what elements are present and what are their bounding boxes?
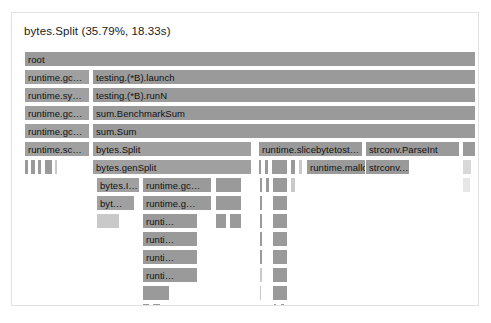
flame-frame[interactable]: bytes.genSplit <box>92 159 252 175</box>
flame-frame-unlabeled[interactable] <box>272 177 288 193</box>
flame-frame[interactable]: runti… <box>142 231 198 247</box>
flame-frame-unlabeled[interactable] <box>259 177 263 193</box>
flame-frame-unlabeled[interactable] <box>272 195 288 211</box>
flame-frame-unlabeled[interactable] <box>36 177 38 193</box>
flame-frame-unlabeled[interactable] <box>462 159 472 175</box>
flame-frame-unlabeled[interactable] <box>54 159 58 175</box>
flame-frame-unlabeled[interactable] <box>259 195 263 211</box>
flame-frame-unlabeled[interactable] <box>259 267 263 283</box>
flame-frame-unlabeled[interactable] <box>264 159 269 175</box>
flame-frame-unlabeled[interactable] <box>37 159 42 175</box>
flame-frame[interactable]: runti… <box>142 249 198 265</box>
flame-frame-unlabeled[interactable] <box>259 249 263 265</box>
flame-frame[interactable]: runtime.sc… <box>24 141 90 157</box>
flame-frame-unlabeled[interactable] <box>273 303 277 306</box>
flame-frame-unlabeled[interactable] <box>272 213 288 229</box>
flame-frame-unlabeled[interactable] <box>259 285 262 301</box>
flame-frame[interactable]: sum.BenchmarkSum <box>92 105 476 121</box>
flame-frame-unlabeled[interactable] <box>462 177 471 193</box>
flame-frame-unlabeled[interactable] <box>25 177 27 193</box>
flame-frame-unlabeled[interactable] <box>96 213 120 229</box>
flame-frame[interactable]: runtime.mallo… <box>306 159 368 175</box>
flame-frame-unlabeled[interactable] <box>215 195 242 211</box>
flame-frame-unlabeled[interactable] <box>290 159 296 175</box>
flame-frame-unlabeled[interactable] <box>272 267 288 283</box>
flame-frame-unlabeled[interactable] <box>258 159 262 175</box>
flamegraph-card: bytes.Split (35.79%, 18.33s) rootruntime… <box>11 12 479 306</box>
flame-frame[interactable]: runtime.sy… <box>24 87 90 103</box>
flame-frame[interactable]: bytes.Split <box>92 141 252 157</box>
flame-frame[interactable]: runtime.g… <box>142 195 212 211</box>
flame-frame-unlabeled[interactable] <box>142 303 150 306</box>
flame-frame-unlabeled[interactable] <box>290 177 296 193</box>
flame-frame-unlabeled[interactable] <box>280 303 285 306</box>
page-title: bytes.Split (35.79%, 18.33s) <box>24 25 171 37</box>
flamegraph-canvas[interactable]: rootruntime.gc…testing.(*B).launchruntim… <box>16 51 476 303</box>
flame-frame[interactable]: runtime.gc… <box>24 123 90 139</box>
flame-frame-unlabeled[interactable] <box>272 285 288 301</box>
flame-frame-unlabeled[interactable] <box>272 231 288 247</box>
flame-frame[interactable]: bytes.I… <box>96 177 140 193</box>
flame-frame-unlabeled[interactable] <box>36 231 38 247</box>
flame-frame-unlabeled[interactable] <box>36 195 38 211</box>
flame-frame[interactable]: runtime.gc… <box>24 69 90 85</box>
flame-frame-unlabeled[interactable] <box>259 213 263 229</box>
flame-frame[interactable]: runtime.gc… <box>142 177 212 193</box>
flame-frame[interactable]: testing.(*B).launch <box>92 69 476 85</box>
flame-frame[interactable]: strconv.ParseInt <box>365 141 460 157</box>
flame-frame[interactable]: runti… <box>142 267 198 283</box>
flame-frame[interactable]: runti… <box>142 213 198 229</box>
flame-frame[interactable]: sum.Sum <box>92 123 476 139</box>
flame-frame-unlabeled[interactable] <box>25 195 27 211</box>
flame-frame-unlabeled[interactable] <box>215 177 242 193</box>
flame-frame-unlabeled[interactable] <box>44 159 53 175</box>
flame-frame-unlabeled[interactable] <box>30 159 36 175</box>
flame-frame-unlabeled[interactable] <box>265 177 270 193</box>
flame-frame-unlabeled[interactable] <box>24 159 29 175</box>
flame-frame-unlabeled[interactable] <box>215 213 227 229</box>
flame-frame-unlabeled[interactable] <box>272 249 288 265</box>
flame-frame[interactable]: strconv.… <box>365 159 410 175</box>
flame-frame-unlabeled[interactable] <box>462 141 476 157</box>
flame-frame-unlabeled[interactable] <box>298 159 303 175</box>
flame-frame-unlabeled[interactable] <box>142 285 170 301</box>
flame-frame-unlabeled[interactable] <box>36 213 38 229</box>
flame-frame-unlabeled[interactable] <box>259 231 263 247</box>
flame-frame-unlabeled[interactable] <box>229 213 242 229</box>
flame-frame[interactable]: root <box>24 51 476 67</box>
flame-frame-unlabeled[interactable] <box>152 303 161 306</box>
flame-frame-unlabeled[interactable] <box>271 159 288 175</box>
flame-frame[interactable]: runtime.gc… <box>24 105 90 121</box>
flame-frame[interactable]: byt… <box>96 195 135 211</box>
flame-frame[interactable]: testing.(*B).runN <box>92 87 476 103</box>
flame-frame[interactable]: runtime.slicebytetost… <box>258 141 363 157</box>
